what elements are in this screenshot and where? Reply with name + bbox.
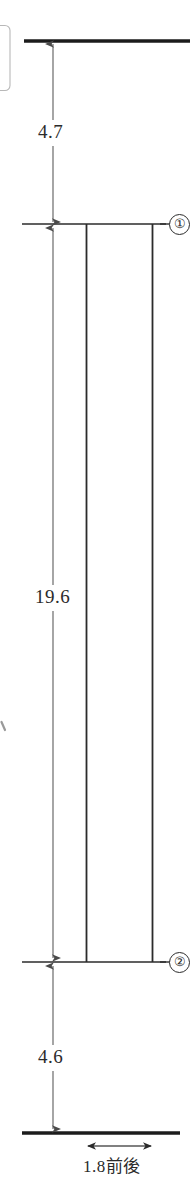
technical-drawing-canvas: 4.7 19.6 4.6 1.8前後 ① ②	[0, 0, 194, 1194]
left-margin-tick	[2, 722, 6, 730]
dimension-label-column-height: 19.6	[33, 586, 72, 607]
dimension-label-width: 1.8前後	[82, 1158, 142, 1175]
left-edge-box-fragment	[0, 26, 10, 91]
drawing-vector-layer	[0, 0, 194, 1194]
dimension-label-bottom-gap: 4.6	[36, 1046, 65, 1067]
marker-1-badge: ①	[169, 214, 190, 235]
dimension-label-top-gap: 4.7	[36, 121, 65, 142]
marker-2-badge: ②	[169, 952, 190, 973]
